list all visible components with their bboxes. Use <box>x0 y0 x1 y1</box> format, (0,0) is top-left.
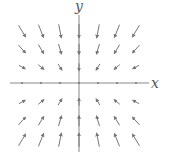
zero-vector-dot <box>78 82 80 84</box>
vector-arrow <box>59 24 62 37</box>
vector-arrow <box>114 117 119 126</box>
vector-arrow <box>38 100 44 105</box>
vector-arrow <box>38 117 43 126</box>
vector-arrow <box>58 99 62 105</box>
vector-arrow <box>38 45 43 54</box>
vector-arrow <box>59 116 62 126</box>
vector-arrow <box>59 133 62 146</box>
vector-arrow <box>97 116 100 126</box>
vector-arrow <box>19 65 25 68</box>
zero-vector-dot <box>40 82 42 84</box>
vector-arrow <box>133 100 139 103</box>
vector-arrow <box>114 45 119 54</box>
vector-arrow <box>97 44 100 54</box>
vector-arrow <box>19 134 26 146</box>
vector-arrow <box>59 44 62 54</box>
zero-vector-dot <box>59 82 61 84</box>
vector-field-plot: x y <box>0 0 174 157</box>
vector-arrow <box>97 133 100 146</box>
vector-arrow <box>114 134 119 147</box>
vector-arrow <box>133 45 140 53</box>
zero-vector-dot <box>135 82 137 84</box>
vector-arrow <box>133 134 140 146</box>
vector-arrow <box>133 25 140 37</box>
vector-arrow <box>19 100 25 103</box>
y-axis-label: y <box>74 0 84 14</box>
vector-arrow <box>114 25 119 38</box>
vector-arrow <box>19 45 26 53</box>
vector-arrow <box>97 24 100 37</box>
zero-vector-dot <box>21 82 23 84</box>
vector-arrow <box>58 64 62 70</box>
vector-arrow <box>114 100 120 105</box>
vector-arrow <box>114 65 120 70</box>
vector-arrow <box>133 117 140 125</box>
vector-arrow <box>38 134 43 147</box>
vector-arrow <box>96 64 100 70</box>
vector-arrow <box>38 65 44 70</box>
vector-arrow <box>133 65 139 68</box>
vector-arrow <box>19 117 26 125</box>
vector-arrow <box>19 25 26 37</box>
x-axis-label: x <box>151 75 159 91</box>
vector-arrow <box>38 25 43 38</box>
zero-vector-dot <box>97 82 99 84</box>
zero-vector-dot <box>116 82 118 84</box>
vector-arrow <box>96 99 100 105</box>
